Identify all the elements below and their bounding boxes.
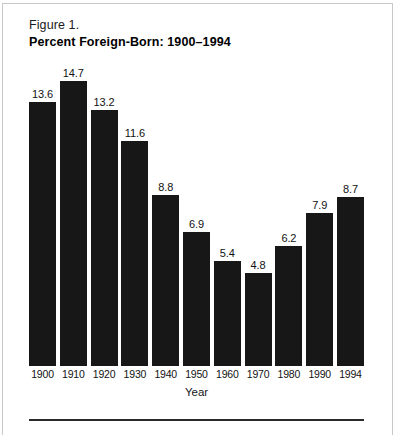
frame-top-border bbox=[2, 3, 393, 4]
bar-slot: 7.9 bbox=[306, 66, 333, 366]
bar-value-label: 7.9 bbox=[312, 199, 327, 211]
x-axis-label: Year bbox=[29, 385, 364, 399]
bottom-rule bbox=[29, 419, 364, 421]
x-axis-tick-label: 1910 bbox=[60, 368, 87, 381]
bar-value-label: 6.2 bbox=[281, 232, 296, 244]
bar-slot: 4.8 bbox=[245, 66, 272, 366]
bar bbox=[152, 195, 179, 366]
bar-value-label: 5.4 bbox=[220, 247, 235, 259]
bar-slot: 6.2 bbox=[275, 66, 302, 366]
bar bbox=[60, 81, 87, 366]
bar-value-label: 13.2 bbox=[94, 96, 115, 108]
bar bbox=[91, 110, 118, 366]
figure-container: Figure 1. Percent Foreign-Born: 1900–199… bbox=[0, 0, 404, 437]
bar bbox=[337, 197, 364, 366]
x-axis-ticks: 1900191019201930194019501960197019801990… bbox=[29, 368, 364, 381]
bar-slot: 13.6 bbox=[29, 66, 56, 366]
bar-value-label: 11.6 bbox=[125, 127, 145, 139]
x-axis-tick-label: 1960 bbox=[214, 368, 241, 381]
bar-slot: 5.4 bbox=[214, 66, 241, 366]
bar bbox=[121, 141, 148, 366]
x-axis-tick-label: 1980 bbox=[275, 368, 302, 381]
bar-value-label: 13.6 bbox=[32, 88, 53, 100]
bar bbox=[214, 261, 241, 366]
x-axis-tick-label: 1994 bbox=[337, 368, 364, 381]
bar-slot: 8.8 bbox=[152, 66, 179, 366]
x-axis-tick-label: 1950 bbox=[183, 368, 210, 381]
figure-number: Figure 1. bbox=[29, 18, 369, 33]
bar-value-label: 6.9 bbox=[189, 218, 204, 230]
plot-area: 13.614.713.211.68.86.95.44.86.27.98.7 bbox=[29, 66, 364, 366]
bar-slot: 11.6 bbox=[121, 66, 148, 366]
bar-slot: 14.7 bbox=[60, 66, 87, 366]
frame-left-border bbox=[2, 3, 3, 435]
x-axis-tick-label: 1940 bbox=[152, 368, 179, 381]
figure-title: Percent Foreign-Born: 1900–1994 bbox=[29, 34, 369, 50]
bar-value-label: 4.8 bbox=[251, 259, 266, 271]
figure-title-block: Figure 1. Percent Foreign-Born: 1900–199… bbox=[29, 18, 369, 50]
bar bbox=[245, 273, 272, 366]
x-axis-tick-label: 1920 bbox=[91, 368, 118, 381]
bar-value-label: 14.7 bbox=[63, 67, 84, 79]
bar bbox=[306, 213, 333, 366]
x-axis-tick-label: 1900 bbox=[29, 368, 56, 381]
bar-value-label: 8.7 bbox=[343, 183, 358, 195]
bar bbox=[29, 102, 56, 366]
bar-series: 13.614.713.211.68.86.95.44.86.27.98.7 bbox=[29, 66, 364, 366]
bar-slot: 8.7 bbox=[337, 66, 364, 366]
x-axis-tick-label: 1970 bbox=[245, 368, 272, 381]
bar-slot: 13.2 bbox=[91, 66, 118, 366]
bar bbox=[275, 246, 302, 366]
x-axis-tick-label: 1990 bbox=[306, 368, 333, 381]
bar-slot: 6.9 bbox=[183, 66, 210, 366]
frame-right-border bbox=[392, 3, 393, 435]
bar-value-label: 8.8 bbox=[158, 181, 173, 193]
bar bbox=[183, 232, 210, 366]
x-axis-tick-label: 1930 bbox=[121, 368, 148, 381]
